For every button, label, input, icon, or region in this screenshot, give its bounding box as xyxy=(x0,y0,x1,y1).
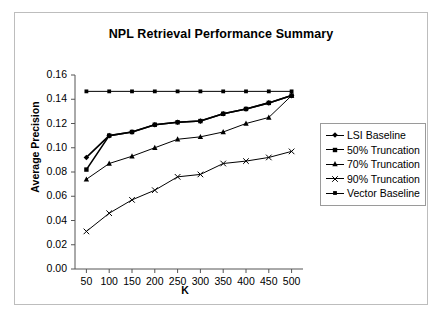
y-tick-label: 0.12 xyxy=(33,117,67,129)
legend-item-vector-baseline[interactable]: Vector Baseline xyxy=(325,186,420,201)
legend-item-90-truncation[interactable]: 90% Truncation xyxy=(325,172,420,187)
chart-figure: NPL Retrieval Performance Summary Averag… xyxy=(14,12,428,305)
legend-marker-icon xyxy=(325,173,345,185)
series-vector-baseline xyxy=(85,89,294,93)
y-tick-label: 0.08 xyxy=(33,165,67,177)
legend-item-70-truncation[interactable]: 70% Truncation xyxy=(325,157,420,172)
legend-marker-icon xyxy=(325,158,345,170)
y-tick-label: 0.02 xyxy=(33,238,67,250)
series-lsi-baseline xyxy=(84,93,295,160)
y-tick-label: 0.14 xyxy=(33,92,67,104)
legend-label: 90% Truncation xyxy=(345,173,420,185)
chart-legend: LSI Baseline50% Truncation70% Truncation… xyxy=(320,123,426,206)
y-tick-label: 0.06 xyxy=(33,189,67,201)
y-tick-label: 0.00 xyxy=(33,262,67,274)
series-50-truncation xyxy=(84,93,294,171)
x-tick-label: 500 xyxy=(277,275,307,287)
y-tick-label: 0.04 xyxy=(33,214,67,226)
legend-label: 50% Truncation xyxy=(345,144,420,156)
series-70-truncation xyxy=(84,93,295,182)
legend-marker-icon xyxy=(325,187,345,199)
legend-item-lsi-baseline[interactable]: LSI Baseline xyxy=(325,128,420,143)
legend-item-50-truncation[interactable]: 50% Truncation xyxy=(325,143,420,158)
legend-marker-icon xyxy=(325,129,345,141)
legend-marker-icon xyxy=(325,144,345,156)
legend-label: LSI Baseline xyxy=(345,129,406,141)
legend-label: 70% Truncation xyxy=(345,158,420,170)
y-tick-label: 0.16 xyxy=(33,68,67,80)
legend-label: Vector Baseline xyxy=(345,187,420,199)
y-tick-label: 0.10 xyxy=(33,141,67,153)
